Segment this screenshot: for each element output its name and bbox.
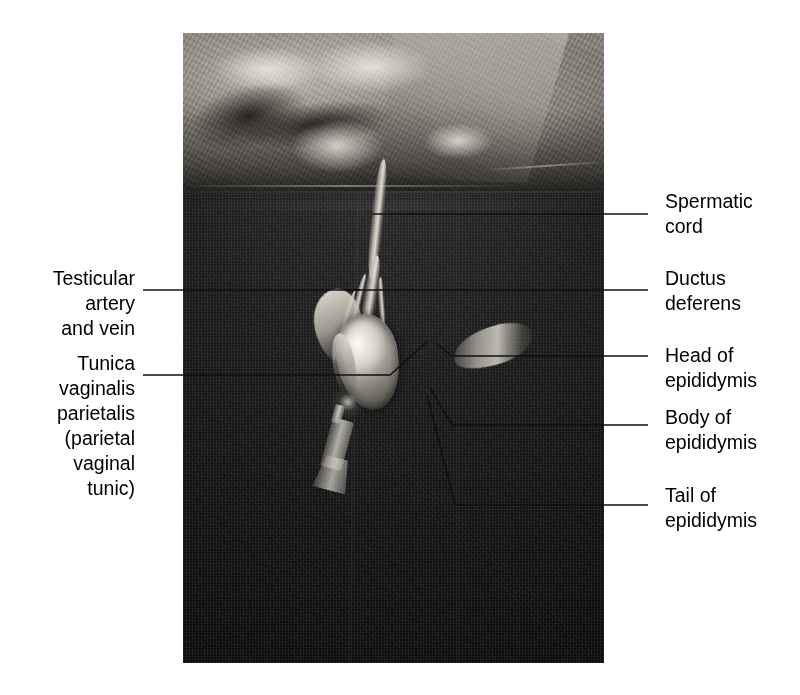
- tissue-edge: [183, 185, 513, 187]
- tissue-highlight: [423, 123, 493, 159]
- label-ductus-deferens: Ductus deferens: [665, 266, 741, 316]
- tissue-highlight: [213, 47, 323, 91]
- drape-seam: [183, 191, 604, 193]
- drape-fold: [455, 183, 460, 663]
- dissection-photograph: [183, 33, 604, 663]
- drape-fold: [183, 201, 604, 211]
- label-tunica-vaginalis-parietalis: Tunica vaginalis parietalis (parietal va…: [24, 351, 135, 501]
- label-spermatic-cord: Spermatic cord: [665, 189, 753, 239]
- label-head-of-epididymis: Head of epididymis: [665, 343, 757, 393]
- tissue-highlight: [311, 41, 431, 93]
- label-body-of-epididymis: Body of epididymis: [665, 405, 757, 455]
- tissue-highlight: [291, 119, 383, 173]
- anatomical-figure: Spermatic cord Ductus deferens Head of e…: [0, 0, 800, 695]
- label-testicular-artery-and-vein: Testicular artery and vein: [24, 266, 135, 341]
- label-tail-of-epididymis: Tail of epididymis: [665, 483, 757, 533]
